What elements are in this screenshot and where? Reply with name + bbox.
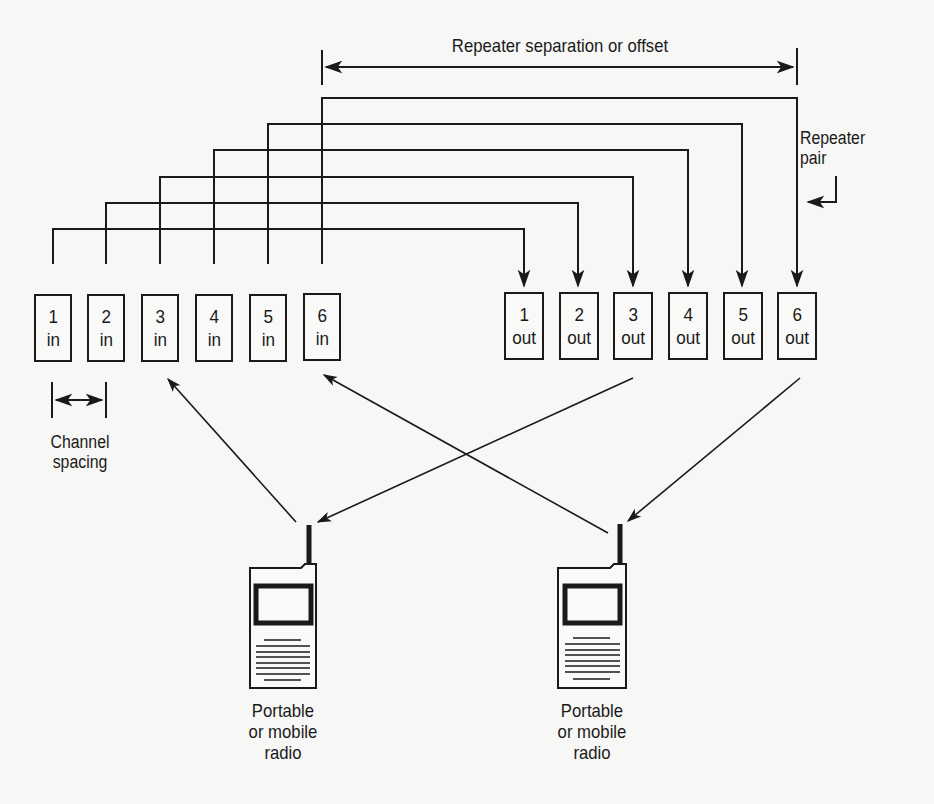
radio-right-caption-line3: radio <box>539 742 645 763</box>
radio-left-caption-line1: Portable <box>230 700 336 721</box>
radio-left-caption-line3: radio <box>230 742 336 763</box>
diagram-canvas <box>0 0 934 804</box>
channel-4-out: 4 out <box>668 292 708 360</box>
repeater-pair-pointer <box>808 176 836 202</box>
radio-right-caption-line2: or mobile <box>539 721 645 742</box>
channel-direction: in <box>46 328 59 351</box>
repeater-pair-label-line1: Repeater <box>800 128 879 148</box>
link-right-radio-to-6-in <box>324 375 608 533</box>
channel-number: 6 <box>317 304 327 327</box>
channel-direction: out <box>512 326 536 349</box>
channel-direction: in <box>207 328 220 351</box>
channel-number: 1 <box>519 303 529 326</box>
channel-number: 5 <box>263 305 273 328</box>
link-6-out-to-right-radio <box>628 378 800 521</box>
channel-number: 6 <box>792 303 802 326</box>
channel-direction: out <box>785 326 809 349</box>
channel-direction: in <box>315 327 328 350</box>
channel-spacing-label-line2: spacing <box>32 452 129 472</box>
channel-6-in: 6 in <box>303 293 341 361</box>
channel-4-in: 4 in <box>195 294 233 362</box>
channel-direction: in <box>261 328 274 351</box>
link-left-radio-to-3-in <box>168 379 296 522</box>
channel-6-out: 6 out <box>777 292 817 360</box>
channel-3-in: 3 in <box>141 294 179 362</box>
channel-direction: out <box>676 326 700 349</box>
channel-1-out: 1 out <box>504 292 544 360</box>
pair-wire-4 <box>214 150 688 286</box>
channel-2-out: 2 out <box>559 292 599 360</box>
channel-spacing-dimension <box>52 382 106 418</box>
channel-direction: in <box>153 328 166 351</box>
channel-spacing-label: Channel spacing <box>32 432 129 472</box>
channel-5-out: 5 out <box>723 292 763 360</box>
pair-wire-6 <box>322 98 797 286</box>
offset-label: Repeater separation or offset <box>419 36 701 56</box>
channel-direction: out <box>731 326 755 349</box>
channel-number: 5 <box>738 303 748 326</box>
channel-spacing-label-line1: Channel <box>32 432 129 452</box>
channel-3-out: 3 out <box>613 292 653 360</box>
radio-left-icon <box>250 525 316 688</box>
channel-5-in: 5 in <box>249 294 287 362</box>
channel-number: 2 <box>574 303 584 326</box>
pair-wire-3 <box>160 177 633 286</box>
radio-right-icon <box>558 524 626 688</box>
channel-number: 3 <box>628 303 638 326</box>
radio-left-caption-line2: or mobile <box>230 721 336 742</box>
channel-direction: in <box>99 328 112 351</box>
channel-direction: out <box>567 326 591 349</box>
channel-number: 1 <box>48 305 58 328</box>
channel-number: 2 <box>101 305 111 328</box>
radio-right-caption: Portable or mobile radio <box>539 700 645 763</box>
radio-right-caption-line1: Portable <box>539 700 645 721</box>
radio-left-caption: Portable or mobile radio <box>230 700 336 763</box>
channel-direction: out <box>621 326 645 349</box>
channel-2-in: 2 in <box>87 294 125 362</box>
pair-wire-2 <box>106 203 578 286</box>
repeater-pair-label: Repeater pair <box>800 128 879 168</box>
channel-number: 3 <box>155 305 165 328</box>
channel-number: 4 <box>209 305 219 328</box>
pair-wire-1 <box>53 229 524 286</box>
channel-1-in: 1 in <box>34 294 72 362</box>
pair-wire-5 <box>268 124 742 286</box>
link-3-out-to-left-radio <box>318 378 633 522</box>
repeater-pair-label-line2: pair <box>800 148 879 168</box>
channel-number: 4 <box>683 303 693 326</box>
